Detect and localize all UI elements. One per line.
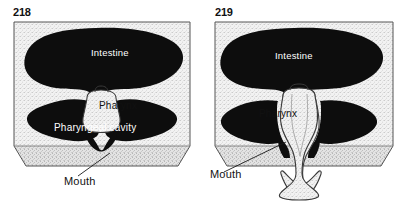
figure-pair: 218 — [0, 0, 408, 206]
figure-panel-219: 219 — [204, 0, 408, 206]
figure-218-illustration — [0, 0, 204, 206]
figure-panel-218: 218 — [0, 0, 204, 206]
figure-219-illustration — [204, 0, 408, 206]
tissue-block-bevel — [14, 146, 190, 166]
pharynx-shape — [83, 90, 120, 133]
